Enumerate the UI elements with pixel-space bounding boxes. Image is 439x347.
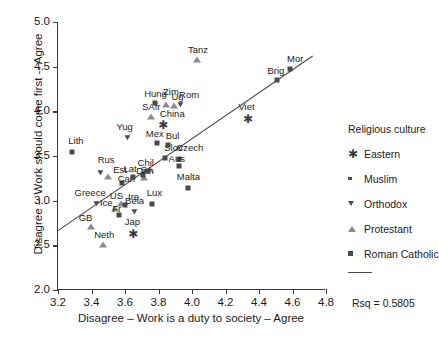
data-point <box>153 100 158 105</box>
data-point <box>275 78 280 83</box>
data-point-label: Fr <box>112 204 121 214</box>
x-axis-tick <box>58 289 59 294</box>
x-axis-tick <box>293 289 294 294</box>
legend-item-label: Eastern <box>364 148 400 160</box>
x-axis-tick <box>92 289 93 294</box>
data-point <box>178 102 184 107</box>
legend-item-muslim[interactable]: Muslim <box>348 172 435 185</box>
data-point-label: Tanz <box>188 45 208 55</box>
legend-fit-line-swatch <box>348 272 372 273</box>
data-point-label: Rus <box>98 155 115 165</box>
data-point-label: China <box>160 109 185 119</box>
data-point-label: Rom <box>179 90 199 100</box>
data-point-label: Czech <box>176 143 203 153</box>
x-axis-tick <box>326 289 327 294</box>
data-point <box>93 201 99 206</box>
plot-inner: LithRusEstGreeceGBNethIceUSIreFrBela✱Jap… <box>58 22 325 289</box>
x-axis-tick-label: 4.6 <box>285 297 301 309</box>
triangle-down-icon <box>348 197 364 210</box>
plot-area: LithRusEstGreeceGBNethIceUSIreFrBela✱Jap… <box>57 22 325 290</box>
data-point-label: Lith <box>68 136 83 146</box>
legend-item-label: Muslim <box>364 173 397 185</box>
legend-item-orthodox[interactable]: Orthodox <box>348 197 435 210</box>
x-axis-tick-label: 3.2 <box>50 297 66 309</box>
data-point <box>145 169 150 174</box>
legend-item-eastern[interactable]: ✱Eastern <box>348 147 435 160</box>
x-axis-title: Disagree – Work is a duty to society – A… <box>57 312 325 324</box>
rsq-annotation: Rsq = 0.5805 <box>352 297 415 309</box>
data-point <box>149 202 154 207</box>
star-icon: ✱ <box>348 147 364 160</box>
x-axis-tick-label: 4.4 <box>251 297 267 309</box>
x-axis-tick <box>259 289 260 294</box>
legend: Religious culture ✱EasternMuslimOrthodox… <box>348 123 435 273</box>
y-axis-tick <box>53 111 58 112</box>
data-point <box>185 185 190 190</box>
data-point-label: Yug <box>117 122 133 132</box>
data-point <box>147 113 155 119</box>
data-point <box>287 67 292 72</box>
x-axis-tick-label: 4.0 <box>184 297 200 309</box>
legend-title: Religious culture <box>348 123 435 135</box>
data-point-label: Chil <box>138 158 154 168</box>
data-point-label: US <box>110 191 123 201</box>
y-axis-tick <box>53 22 58 23</box>
data-point <box>70 150 75 155</box>
y-axis-title: Disagree -- Work should come first -- Ag… <box>32 0 44 294</box>
y-axis-tick <box>53 201 58 202</box>
legend-item-protestant[interactable]: Protestant <box>348 222 435 235</box>
data-point <box>131 209 137 214</box>
data-point <box>163 155 168 160</box>
data-point-label: Brig <box>267 66 284 76</box>
data-point-label: Bela <box>125 196 144 206</box>
data-point <box>130 175 135 180</box>
x-axis-tick <box>226 289 227 294</box>
x-axis-tick-label: 3.4 <box>84 297 100 309</box>
data-point <box>124 135 130 140</box>
x-axis-tick <box>159 289 160 294</box>
x-axis-tick-label: 3.6 <box>117 297 133 309</box>
data-point-label: Neth <box>94 230 114 240</box>
legend-rows: ✱EasternMuslimOrthodoxProtestantRoman Ca… <box>348 147 435 260</box>
data-point-label: Lux <box>147 188 162 198</box>
x-axis-tick-label: 4.8 <box>318 297 334 309</box>
small-square-icon <box>348 172 364 185</box>
y-axis-tick <box>53 156 58 157</box>
data-point-label: Bul <box>166 131 180 141</box>
x-axis-tick <box>192 289 193 294</box>
x-axis-tick-label: 3.8 <box>151 297 167 309</box>
data-point-label: SAfr <box>142 102 160 112</box>
triangle-up-icon <box>348 222 364 235</box>
data-point <box>104 173 112 179</box>
data-point: ✱ <box>243 116 253 122</box>
data-point-label: Jap <box>125 217 140 227</box>
data-point <box>162 101 170 107</box>
y-axis-tick <box>53 67 58 68</box>
data-point-label: Greece <box>75 188 106 198</box>
data-point <box>176 163 181 168</box>
data-point-label: Aus <box>169 154 185 164</box>
data-point-label: Lat <box>124 164 137 174</box>
data-point <box>165 142 170 147</box>
data-point: ✱ <box>158 122 168 128</box>
legend-item-label: Roman Catholic <box>364 248 439 260</box>
data-point-label: Malta <box>177 172 200 182</box>
legend-item-label: Orthodox <box>364 198 407 210</box>
data-point-label: Viet <box>238 102 254 112</box>
data-point-label: GB <box>79 213 93 223</box>
data-point-label: Mor <box>287 54 303 64</box>
legend-item-label: Protestant <box>364 223 412 235</box>
data-point <box>193 56 201 62</box>
x-axis-tick <box>125 289 126 294</box>
data-point: ✱ <box>128 231 138 237</box>
square-icon <box>348 247 364 260</box>
x-axis-tick-label: 4.2 <box>218 297 234 309</box>
data-point <box>99 242 107 248</box>
y-axis-tick <box>53 245 58 246</box>
legend-item-roman-catholic[interactable]: Roman Catholic <box>348 247 435 260</box>
data-point <box>154 141 159 146</box>
data-point <box>97 170 103 175</box>
